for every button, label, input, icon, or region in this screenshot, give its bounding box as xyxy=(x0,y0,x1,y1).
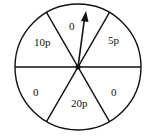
sector-label-bottom: 20p xyxy=(71,97,88,109)
sector-label-lower-right: 0 xyxy=(111,86,117,98)
sector-label-lower-left: 0 xyxy=(33,86,39,98)
sector-label-upper-right: 5p xyxy=(108,34,120,46)
sector-label-top: 0 xyxy=(69,20,75,32)
sector-label-upper-left: 10p xyxy=(34,36,51,48)
center-pivot-icon xyxy=(75,64,80,69)
spinner-svg: 0 5p 0 20p 0 10p xyxy=(0,0,151,136)
spinner-diagram: 0 5p 0 20p 0 10p xyxy=(0,0,151,136)
